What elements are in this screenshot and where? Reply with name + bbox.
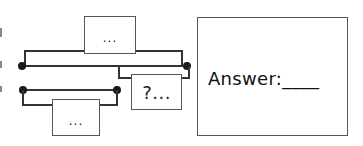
question-box: ?... — [131, 74, 182, 110]
answer-label: Answer:____ — [208, 68, 319, 89]
bottom-box: ... — [52, 99, 100, 136]
main-line-left-dot — [18, 62, 26, 70]
bottom-line — [23, 89, 118, 91]
question-bracket-right-leg — [188, 66, 190, 78]
top-box: ... — [84, 16, 136, 54]
question-box-label: ?... — [142, 82, 171, 103]
cropped-text-fragment — [0, 28, 2, 37]
top-box-label: ... — [103, 25, 117, 45]
bottom-box-label: ... — [69, 108, 83, 128]
cropped-text-fragment — [0, 61, 2, 68]
cropped-text-fragment — [0, 86, 2, 92]
bottom-bracket-right-leg — [116, 90, 118, 106]
main-line — [22, 65, 187, 67]
